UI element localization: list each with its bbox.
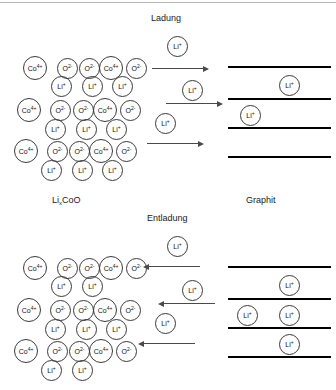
ion-symbol: Co4+ [19,148,34,155]
ion-charge: 2- [131,305,135,311]
ion-charge: + [94,81,97,87]
ion-symbol: Co4+ [94,148,109,155]
ion-charge: + [252,110,255,116]
graphite-sheet [228,298,331,300]
top-border-rule [0,2,336,3]
ion-charge: 4+ [28,145,34,151]
ion-charge: 2- [61,105,65,111]
ion-symbol: Co4+ [19,348,34,355]
ion-charge: 4+ [103,345,109,351]
ion-symbol: Li+ [57,83,65,90]
graphite-sheet [228,156,331,158]
ion-symbol: Li+ [173,43,181,50]
ion-symbol: Li+ [161,320,169,327]
ion-symbol: Li+ [112,326,120,333]
ion-charge: 4+ [103,145,109,151]
ion-charge: 2- [84,305,88,311]
cobalt-ion: Co4+ [17,298,41,322]
ion-charge: + [291,310,294,316]
ion-charge: 2- [127,346,131,352]
ion-symbol: O2- [63,265,73,272]
ion-charge: + [88,124,91,130]
ion-symbol: O2- [79,107,89,114]
ion-symbol: Co4+ [22,307,37,314]
lithium-ion: Li+ [41,360,62,381]
cobalt-ion: Co4+ [17,98,41,122]
ion-charge: 4+ [31,304,37,310]
lithium-ion: Li+ [182,280,203,301]
ion-symbol: O2- [85,65,95,72]
ion-charge: + [118,324,121,330]
lithium-ion: Li+ [72,160,93,181]
migration-arrow-line [148,266,200,267]
ion-symbol: Li+ [118,83,126,90]
ion-symbol: O2- [63,65,73,72]
ion-symbol: Co4+ [22,107,37,114]
lithium-ion: Li+ [279,334,300,355]
ion-charge: 4+ [113,62,119,68]
ion-symbol: Li+ [243,312,251,319]
lithium-ion: Li+ [51,76,72,97]
cathode-suffix: CoO [62,195,81,205]
lithium-ion: Li+ [279,305,300,326]
lithium-ion: Li+ [102,160,123,181]
ion-charge: + [63,81,66,87]
ion-charge: + [94,281,97,287]
ion-symbol: Li+ [78,167,86,174]
migration-arrow-line [163,303,215,304]
ion-symbol: Li+ [285,282,293,289]
ion-symbol: Co4+ [104,65,119,72]
ion-charge: 2- [61,305,65,311]
ion-charge: + [194,285,197,291]
ion-charge: + [194,85,197,91]
battery-diagram: Ladung Entladung LixCoO Graphit Co4+O2-O… [0,0,336,390]
cathode-prefix: Li [52,195,59,205]
ion-symbol: O2- [122,148,132,155]
ion-charge: 4+ [107,304,113,310]
ion-charge: + [63,281,66,287]
oxygen-ion: O2- [50,300,71,321]
ion-symbol: O2- [85,265,95,272]
migration-arrow-line [143,343,195,344]
lithium-ion: Li+ [72,360,93,381]
label-cathode: LixCoO [52,196,81,205]
ion-charge: 2- [90,63,94,69]
ion-symbol: Li+ [47,167,55,174]
ion-symbol: Co4+ [98,107,113,114]
lithium-ion: Li+ [106,319,127,340]
graphite-sheet [228,98,331,100]
label-anode: Graphit [246,196,276,205]
lithium-ion: Li+ [41,160,62,181]
migration-arrow-head-right [198,141,204,147]
lithium-ion: Li+ [182,80,203,101]
oxygen-ion: O2- [120,100,141,121]
ion-charge: 2- [80,346,84,352]
ion-symbol: O2- [132,265,142,272]
ion-charge: 2- [58,146,62,152]
ion-charge: 2- [131,105,135,111]
ion-symbol: Li+ [78,367,86,374]
ion-symbol: Li+ [112,126,120,133]
ion-charge: 2- [90,263,94,269]
ion-charge: + [167,118,170,124]
ion-charge: 2- [58,346,62,352]
ion-symbol: Li+ [285,82,293,89]
lithium-ion: Li+ [279,75,300,96]
ion-charge: 2- [137,63,141,69]
ion-charge: 2- [84,105,88,111]
oxygen-ion: O2- [116,141,137,162]
graphite-sheet [228,66,331,68]
ion-symbol: Co4+ [28,265,43,272]
migration-arrow-line [147,143,199,144]
graphite-sheet [228,327,331,329]
ion-symbol: O2- [53,348,63,355]
cobalt-ion: Co4+ [99,256,123,280]
lithium-ion: Li+ [279,275,300,296]
graphite-sheet [228,127,331,129]
ion-charge: + [291,80,294,86]
migration-arrow-head-right [217,101,223,107]
ion-symbol: Co4+ [94,348,109,355]
lithium-ion: Li+ [155,313,176,334]
migration-arrow-head-left [138,341,144,347]
ion-symbol: Li+ [285,341,293,348]
